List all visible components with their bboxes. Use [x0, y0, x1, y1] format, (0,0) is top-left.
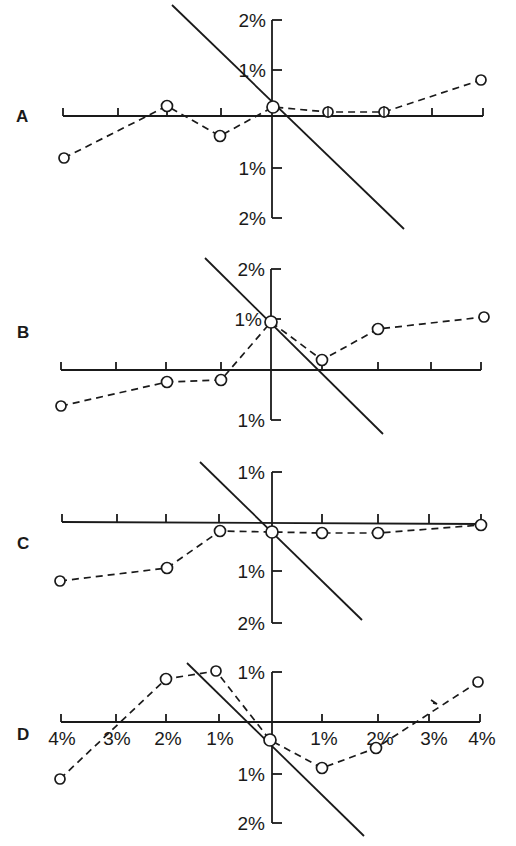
reference-line-c — [200, 462, 362, 620]
arrow-mark-icon — [431, 700, 437, 704]
y-label-d-1-neg: 1% — [238, 764, 266, 785]
y-label-b-2-pos: 2% — [238, 259, 266, 280]
y-label-c-1-pos: 1% — [238, 462, 266, 483]
x-label-d-4-pos: 4% — [468, 728, 496, 749]
y-label-a-2-pos: 2% — [239, 10, 267, 31]
panel-letter-a: A — [16, 107, 28, 126]
x-label-d-4-neg: 4% — [48, 728, 76, 749]
reference-line-b — [205, 258, 383, 434]
data-markers-b — [56, 312, 489, 411]
y-ticks-a — [272, 20, 282, 218]
y-ticks-c — [272, 472, 282, 623]
y-label-d-1-pos: 1% — [238, 662, 266, 683]
y-label-a-1-pos: 1% — [239, 60, 267, 81]
data-line-b — [61, 317, 484, 406]
figure: A 2% 1% 1% 2% — [0, 0, 516, 846]
x-label-d-2-neg: 2% — [154, 728, 182, 749]
y-label-a-2-neg: 2% — [239, 208, 267, 229]
reference-line-d — [187, 663, 364, 836]
y-label-b-1-neg: 1% — [238, 410, 266, 431]
data-markers-d — [55, 666, 483, 784]
y-label-a-1-neg: 1% — [239, 158, 267, 179]
panel-letter-b: B — [17, 323, 29, 342]
x-label-d-1-pos: 1% — [310, 728, 338, 749]
panel-c: C 1% 1% 2% — [17, 462, 487, 634]
panel-b: B 2% 1% 1% — [17, 258, 489, 434]
reference-line-a — [172, 5, 404, 229]
y-label-c-2-neg: 2% — [238, 613, 266, 634]
panel-d: D 4% 3% 2% 1% 1% 2% 3% 4% 1% — [17, 662, 496, 836]
x-label-d-1-neg: 1% — [206, 728, 234, 749]
panel-letter-d: D — [17, 725, 29, 744]
data-line-d — [60, 671, 478, 779]
x-label-d-3-pos: 3% — [420, 728, 448, 749]
panel-a: A 2% 1% 1% 2% — [16, 5, 486, 229]
y-ticks-b — [271, 269, 281, 420]
y-label-d-2-neg: 2% — [238, 813, 266, 834]
x-label-d-3-neg: 3% — [103, 728, 131, 749]
panel-letter-c: C — [17, 534, 29, 553]
y-label-c-1-neg: 1% — [238, 561, 266, 582]
y-label-b-1-pos: 1% — [235, 309, 263, 330]
